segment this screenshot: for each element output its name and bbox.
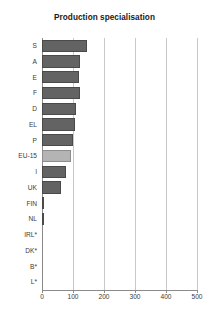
x-label-500: 500 <box>191 293 202 300</box>
bar-f <box>42 87 80 99</box>
bar-el <box>42 118 75 130</box>
x-label-400: 400 <box>160 293 171 300</box>
x-axis-baseline <box>42 290 198 291</box>
bar-d <box>42 103 76 115</box>
y-label-lstar: L* <box>31 274 37 290</box>
y-label-e: E <box>33 70 37 86</box>
bar-s <box>42 40 87 52</box>
x-axis-tick-labels: 0100200300400500 <box>0 293 209 307</box>
bar-eu-15 <box>42 150 71 162</box>
y-label-s: S <box>33 38 37 54</box>
y-axis-category-labels: SAEFDELPEU-15IUKFINNLIRL*DK*B*L* <box>0 38 40 290</box>
bar-row <box>42 133 197 149</box>
plot-area <box>42 38 197 290</box>
y-label-f: F <box>33 85 37 101</box>
y-label-i: I <box>35 164 37 180</box>
bar-row <box>42 54 197 70</box>
bar-row <box>42 117 197 133</box>
x-label-200: 200 <box>98 293 109 300</box>
x-tick-300 <box>135 290 136 293</box>
bar-row <box>42 274 197 290</box>
bar-e <box>42 71 79 83</box>
y-label-p: P <box>33 133 37 149</box>
y-label-fin: FIN <box>26 196 37 212</box>
y-label-bstar: B* <box>30 259 37 275</box>
bar-a <box>42 55 80 67</box>
y-label-dkstar: DK* <box>25 243 37 259</box>
bar-row <box>42 85 197 101</box>
bar-i <box>42 166 66 178</box>
bar-row <box>42 259 197 275</box>
x-tick-200 <box>104 290 105 293</box>
chart-title: Production specialisation <box>0 13 209 22</box>
y-label-a: A <box>33 54 37 70</box>
bar-row <box>42 243 197 259</box>
bar-row <box>42 148 197 164</box>
bar-nl <box>42 213 44 225</box>
bar-row <box>42 180 197 196</box>
x-tick-400 <box>166 290 167 293</box>
x-label-100: 100 <box>67 293 78 300</box>
bar-row <box>42 164 197 180</box>
bar-row <box>42 211 197 227</box>
y-label-d: D <box>32 101 37 117</box>
bar-row <box>42 227 197 243</box>
x-tick-0 <box>42 290 43 293</box>
bars-group <box>42 38 197 290</box>
x-label-300: 300 <box>129 293 140 300</box>
x-tick-500 <box>197 290 198 293</box>
y-label-uk: UK <box>28 180 37 196</box>
bar-row <box>42 70 197 86</box>
bar-row <box>42 196 197 212</box>
x-tick-100 <box>73 290 74 293</box>
bar-uk <box>42 181 61 193</box>
y-label-nl: NL <box>29 211 37 227</box>
x-label-0: 0 <box>40 293 44 300</box>
y-label-el: EL <box>29 117 37 133</box>
y-label-irlstar: IRL* <box>24 227 37 243</box>
bar-row <box>42 38 197 54</box>
y-label-eu-15: EU-15 <box>18 148 37 164</box>
gridline-500 <box>197 38 198 290</box>
bar-row <box>42 101 197 117</box>
production-specialisation-chart: Production specialisation SAEFDELPEU-15I… <box>0 0 209 334</box>
bar-fin <box>42 197 44 209</box>
bar-p <box>42 134 73 146</box>
